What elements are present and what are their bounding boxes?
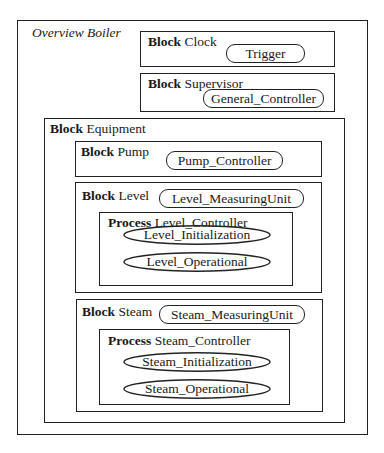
block-clock-label: Block Clock xyxy=(148,35,217,49)
state-steam-initialization: Steam_Initialization xyxy=(123,352,271,372)
block-level-label: Block Level xyxy=(82,189,149,203)
component-general-controller: General_Controller xyxy=(203,89,324,108)
state-steam-operational: Steam_Operational xyxy=(123,379,271,399)
component-trigger: Trigger xyxy=(226,44,305,63)
component-steam-measuring-unit: Steam_MeasuringUnit xyxy=(159,305,305,324)
overview-title: Overview Boiler xyxy=(32,26,121,40)
block-equipment-label: Block Equipment xyxy=(50,122,146,136)
state-level-initialization: Level_Initialization xyxy=(123,225,271,245)
state-level-operational: Level_Operational xyxy=(123,252,271,272)
block-pump-label: Block Pump xyxy=(81,145,149,159)
component-level-measuring-unit: Level_MeasuringUnit xyxy=(159,189,304,208)
process-steam-controller-label: Process Steam_Controller xyxy=(108,334,251,348)
component-pump-controller: Pump_Controller xyxy=(166,151,283,170)
block-steam-label: Block Steam xyxy=(82,305,152,319)
